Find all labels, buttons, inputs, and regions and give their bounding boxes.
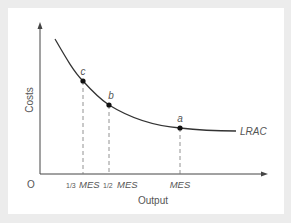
x-axis-label: Output	[138, 195, 168, 206]
point-c-label: c	[81, 66, 86, 77]
tick-1-fraction: 1/3	[66, 182, 76, 189]
tick-2-fraction: 1/2	[103, 182, 113, 189]
y-axis-arrow-icon	[38, 22, 43, 29]
y-axis-label: Costs	[24, 87, 35, 113]
x-axis-arrow-icon	[261, 172, 268, 177]
tick-3-label: MES	[170, 179, 191, 190]
point-a-label: a	[177, 113, 183, 124]
origin-label: O	[27, 179, 35, 190]
point-a	[177, 125, 182, 130]
tick-2-label: MES	[117, 179, 138, 190]
tick-1-label: MES	[79, 179, 100, 190]
curve-label: LRAC	[240, 126, 267, 137]
point-c	[80, 78, 85, 83]
point-b-label: b	[108, 90, 114, 101]
point-b	[106, 102, 111, 107]
lrac-chart: c b a LRAC Costs Output O 1/3 MES 1/2 ME…	[0, 0, 291, 223]
lrac-curve	[55, 39, 236, 131]
